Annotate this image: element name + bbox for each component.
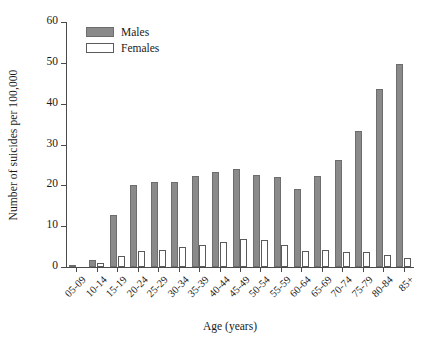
legend-item-males: Males bbox=[86, 24, 159, 40]
y-axis-tick: 0 bbox=[61, 267, 66, 268]
y-axis-tick-label: 20 bbox=[47, 177, 59, 189]
bar-females-65-69 bbox=[322, 250, 329, 267]
x-axis-tick bbox=[117, 267, 118, 272]
x-axis-tick-label: 80-84 bbox=[370, 274, 395, 299]
x-axis-title: Age (years) bbox=[0, 320, 430, 332]
x-axis-tick-label: 05-09 bbox=[63, 274, 88, 299]
y-axis-tick-label: 0 bbox=[52, 259, 58, 271]
x-axis-tick-label: 15-19 bbox=[104, 274, 129, 299]
bar-males-80-84 bbox=[376, 89, 383, 267]
bar-males-30-34 bbox=[171, 182, 178, 267]
bar-males-65-69 bbox=[314, 176, 321, 267]
filled-gray-swatch bbox=[86, 27, 114, 37]
legend-item-females: Females bbox=[86, 40, 159, 56]
y-axis-tick-label: 10 bbox=[47, 218, 59, 230]
x-axis-tick-label: 25-29 bbox=[145, 274, 170, 299]
bar-females-55-59 bbox=[281, 245, 288, 267]
plot-area: 0102030405060 05-0910-1415-1920-2425-293… bbox=[66, 22, 414, 267]
x-axis-tick bbox=[220, 267, 221, 272]
bar-males-70-74 bbox=[335, 160, 342, 267]
x-axis-tick bbox=[342, 267, 343, 272]
y-axis-tick: 50 bbox=[61, 63, 66, 64]
bar-females-70-74 bbox=[343, 252, 350, 267]
bar-females-25-29 bbox=[159, 250, 166, 267]
legend-item-label: Males bbox=[121, 26, 149, 38]
bar-males-75-79 bbox=[355, 131, 362, 267]
bar-males-50-54 bbox=[253, 175, 260, 267]
y-axis-tick: 20 bbox=[61, 185, 66, 186]
y-axis-line bbox=[66, 22, 67, 267]
x-axis-tick bbox=[97, 267, 98, 272]
bar-males-55-59 bbox=[274, 177, 281, 267]
bar-males-15-19 bbox=[110, 215, 117, 267]
bar-females-85+ bbox=[404, 258, 411, 267]
bar-males-45-49 bbox=[233, 169, 240, 267]
chart-legend: MalesFemales bbox=[86, 24, 159, 56]
bar-females-45-49 bbox=[240, 239, 247, 267]
x-axis-tick bbox=[158, 267, 159, 272]
x-axis-tick bbox=[404, 267, 405, 272]
x-axis-tick bbox=[322, 267, 323, 272]
x-axis-tick bbox=[199, 267, 200, 272]
y-axis-tick: 10 bbox=[61, 226, 66, 227]
bar-females-80-84 bbox=[384, 255, 391, 267]
x-axis-tick-label: 85+ bbox=[396, 274, 415, 293]
bar-females-20-24 bbox=[138, 251, 145, 267]
x-axis-tick-label: 40-44 bbox=[206, 274, 231, 299]
x-axis-tick bbox=[138, 267, 139, 272]
bar-males-25-29 bbox=[151, 182, 158, 267]
x-axis-tick-label: 10-14 bbox=[83, 274, 108, 299]
x-axis-tick bbox=[240, 267, 241, 272]
bar-males-85+ bbox=[396, 64, 403, 267]
bar-males-40-44 bbox=[212, 172, 219, 267]
y-axis-tick: 60 bbox=[61, 22, 66, 23]
x-axis-tick bbox=[281, 267, 282, 272]
bar-females-75-79 bbox=[363, 252, 370, 267]
x-axis-tick-label: 20-24 bbox=[124, 274, 149, 299]
bar-males-05-09 bbox=[69, 265, 76, 267]
y-axis-title-text: Number of suicides per 100,000 bbox=[7, 70, 19, 221]
bar-females-40-44 bbox=[220, 242, 227, 267]
bar-males-35-39 bbox=[192, 176, 199, 267]
y-axis-tick-label: 60 bbox=[47, 14, 59, 26]
bar-females-50-54 bbox=[261, 240, 268, 267]
bar-females-15-19 bbox=[118, 256, 125, 267]
x-axis-tick-label: 65-69 bbox=[309, 274, 334, 299]
x-axis-tick-label: 60-64 bbox=[288, 274, 313, 299]
x-axis-tick bbox=[260, 267, 261, 272]
x-axis-tick-label: 70-74 bbox=[329, 274, 354, 299]
legend-item-label: Females bbox=[121, 42, 159, 54]
x-axis-tick-label: 50-54 bbox=[247, 274, 272, 299]
y-axis-tick: 40 bbox=[61, 104, 66, 105]
bar-females-60-64 bbox=[302, 251, 309, 267]
bar-females-10-14 bbox=[97, 263, 104, 267]
y-axis-tick-label: 40 bbox=[47, 96, 59, 108]
x-axis-tick bbox=[363, 267, 364, 272]
x-axis-tick-label: 30-34 bbox=[165, 274, 190, 299]
empty-white-swatch bbox=[86, 43, 114, 53]
suicide-rate-bar-chart: Number of suicides per 100,000 010203040… bbox=[0, 0, 430, 346]
bar-males-60-64 bbox=[294, 189, 301, 267]
y-axis-tick: 30 bbox=[61, 145, 66, 146]
x-axis-tick-label: 55-59 bbox=[268, 274, 293, 299]
x-axis-title-text: Age (years) bbox=[173, 320, 257, 332]
y-axis-title: Number of suicides per 100,000 bbox=[0, 0, 26, 290]
x-axis-tick bbox=[179, 267, 180, 272]
x-axis-tick bbox=[383, 267, 384, 272]
bar-males-10-14 bbox=[89, 260, 96, 267]
x-axis-tick-label: 35-39 bbox=[186, 274, 211, 299]
bar-females-35-39 bbox=[199, 245, 206, 267]
x-axis-tick bbox=[76, 267, 77, 272]
y-axis-tick-label: 30 bbox=[47, 137, 59, 149]
x-axis-tick bbox=[301, 267, 302, 272]
y-axis-tick-label: 50 bbox=[47, 55, 59, 67]
x-axis-tick-label: 45-49 bbox=[227, 274, 252, 299]
x-axis-tick-label: 75-79 bbox=[349, 274, 374, 299]
bar-females-30-34 bbox=[179, 247, 186, 267]
bar-males-20-24 bbox=[130, 185, 137, 267]
